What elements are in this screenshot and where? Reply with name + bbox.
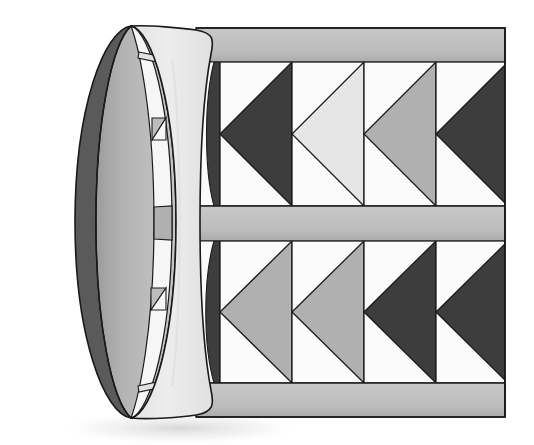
chevron-row-top [180, 62, 510, 207]
cylinder-band-illustration [0, 0, 534, 445]
chevron-cell-bottom-3 [364, 241, 436, 383]
chevron-row-bottom [180, 241, 510, 385]
chevron-cell-bottom-1 [220, 241, 292, 383]
cylinder-body [172, 28, 510, 417]
rear-rim [75, 26, 176, 418]
chevron-cell-top-4 [436, 62, 508, 206]
chevron-cell-bottom-4 [436, 241, 508, 383]
rim-middle-tab [154, 206, 172, 240]
rim-lower-notch [151, 288, 166, 310]
top-rail [194, 28, 505, 62]
chevron-cell-top-1 [220, 62, 292, 206]
middle-rail [192, 206, 506, 241]
figure-canvas [0, 0, 534, 445]
rim-upper-notch [152, 118, 166, 140]
chevron-cell-top-3 [364, 62, 436, 206]
chevron-cell-top-2 [292, 62, 364, 206]
bottom-rail [193, 383, 505, 417]
chevron-cell-bottom-2 [292, 241, 364, 383]
